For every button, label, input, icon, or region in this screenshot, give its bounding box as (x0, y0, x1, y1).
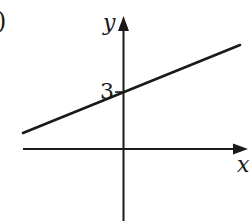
y-axis-label: y (102, 10, 116, 35)
graph-canvas: ) y x 3 (0, 0, 250, 221)
x-axis-label: x (237, 152, 250, 177)
graph-line (23, 45, 240, 133)
y-axis-arrow-icon (118, 16, 129, 31)
part-label: ) (0, 7, 6, 35)
graph-figure: ) y x 3 (0, 0, 250, 221)
